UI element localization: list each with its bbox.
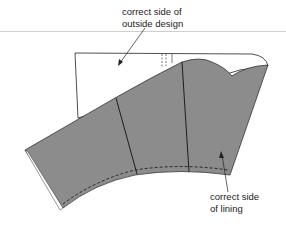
lining-label-line2: of lining bbox=[210, 203, 259, 215]
outside-label-line1: correct side of bbox=[122, 6, 183, 18]
lining-label-line1: correct side bbox=[210, 191, 259, 203]
outside-label-line2: outside design bbox=[122, 18, 183, 30]
lining-piece bbox=[25, 59, 268, 208]
outside-design-label: correct side of outside design bbox=[122, 6, 183, 30]
lining-label: correct side of lining bbox=[210, 191, 259, 215]
